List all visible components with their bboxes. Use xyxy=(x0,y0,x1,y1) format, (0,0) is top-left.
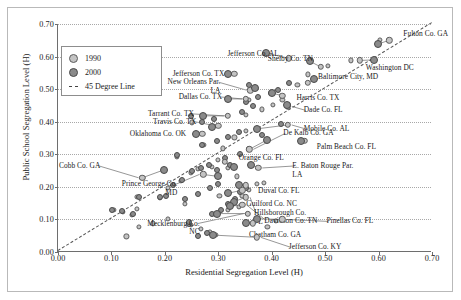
point-label: E. Baton Rouge Par. LA xyxy=(292,162,354,179)
data-point-2000 xyxy=(119,208,125,214)
data-point-2000 xyxy=(253,125,261,133)
data-point-2000 xyxy=(213,210,221,218)
data-point-2000 xyxy=(207,185,213,191)
data-point-2000 xyxy=(199,142,205,148)
leader-line xyxy=(262,166,294,168)
legend-item-45-line: 45 Degree Line xyxy=(69,79,161,93)
data-point-2000 xyxy=(208,123,216,131)
data-point-2000 xyxy=(242,219,250,227)
legend-item-2000: 2000 xyxy=(69,65,161,79)
point-label: Duval Co. FL xyxy=(258,187,299,196)
data-point-2000 xyxy=(109,207,115,213)
dashed-line-icon xyxy=(69,86,78,87)
point-label: Mecklenburg Co. NC xyxy=(138,220,200,237)
figure-scatter-plot: Public School Segregation Level (H) Resi… xyxy=(0,0,461,300)
data-point-2000 xyxy=(226,202,234,210)
legend-item-1990: 1990 xyxy=(69,51,161,65)
point-label: Palm Beach Co. FL xyxy=(317,143,376,152)
legend-label-2000: 2000 xyxy=(85,68,101,77)
data-point-2000 xyxy=(224,189,232,197)
y-tick-mark xyxy=(55,57,58,58)
data-point-2000 xyxy=(198,165,204,171)
point-label: Jefferson Co. KY xyxy=(289,243,342,252)
data-point-2000 xyxy=(268,89,276,97)
x-tick-label: 0.20 xyxy=(157,254,172,263)
data-point-2000 xyxy=(374,40,382,48)
point-label: Dallas Co. TX xyxy=(179,93,222,102)
data-point-2000 xyxy=(130,211,136,217)
y-tick-label: 0.20 xyxy=(39,182,54,191)
circle-1990-icon xyxy=(69,54,78,63)
data-point-2000 xyxy=(160,166,168,174)
y-tick-label: 0.50 xyxy=(39,85,54,94)
data-point-2000 xyxy=(199,119,205,125)
x-tick-label: 0.70 xyxy=(425,254,440,263)
data-point-2000 xyxy=(174,152,180,158)
gridline-horizontal xyxy=(58,122,431,123)
x-axis-label: Residential Segregation Level (H) xyxy=(57,267,431,277)
y-axis-label: Public School Segregation Level (H) xyxy=(21,17,31,217)
x-tick-label: 0.60 xyxy=(371,254,386,263)
data-point-2000 xyxy=(224,95,232,103)
data-point-2000 xyxy=(230,163,238,171)
point-label: Dade Co. FL xyxy=(304,106,343,115)
point-label: Cobb Co. GA xyxy=(59,162,100,171)
point-label: De Kalb Co. GA xyxy=(283,129,333,138)
point-label: Fulton Co. GA xyxy=(403,30,448,39)
x-tick-label: 0.30 xyxy=(211,254,226,263)
data-point-2000 xyxy=(195,191,201,197)
point-label: Orange Co. FL xyxy=(239,154,284,163)
leader-line xyxy=(98,166,138,178)
x-tick-label: 0.10 xyxy=(104,254,119,263)
data-point-2000 xyxy=(214,172,222,180)
point-label: Baltimore City, MD xyxy=(318,73,380,82)
circle-2000-icon xyxy=(69,68,78,77)
point-label: Pinellas Co. FL xyxy=(326,217,373,226)
y-tick-mark xyxy=(55,154,58,155)
data-point-2000 xyxy=(236,129,242,135)
y-tick-mark xyxy=(55,89,58,90)
gridline-horizontal xyxy=(58,24,431,25)
data-point-2000 xyxy=(209,231,217,239)
y-tick-mark xyxy=(55,24,58,25)
data-point-2000 xyxy=(199,112,207,120)
data-point-2000 xyxy=(224,70,232,78)
y-tick-label: 0.70 xyxy=(39,20,54,29)
data-point-2000 xyxy=(239,109,245,115)
y-tick-mark xyxy=(55,122,58,123)
data-point-2000 xyxy=(206,162,212,168)
data-point-2000 xyxy=(189,168,195,174)
y-tick-label: 0.30 xyxy=(39,150,54,159)
legend: 1990 2000 45 Degree Line xyxy=(61,46,162,96)
x-tick-label: 0.50 xyxy=(318,254,333,263)
point-label: Travis Co. TX xyxy=(153,118,196,127)
data-point-2000 xyxy=(247,161,255,169)
data-point-2000 xyxy=(215,181,221,187)
point-label: Oklahoma Co. OK xyxy=(130,130,186,139)
y-tick-label: 0.10 xyxy=(39,215,54,224)
data-point-2000 xyxy=(297,137,305,145)
y-tick-mark xyxy=(55,219,58,220)
data-point-2000 xyxy=(182,196,188,202)
data-point-2000 xyxy=(179,177,185,183)
data-point-2000 xyxy=(250,103,256,109)
data-point-2000 xyxy=(255,94,261,100)
y-tick-label: 0.60 xyxy=(39,52,54,61)
point-label: Shelby Co. TN xyxy=(268,55,313,64)
point-label: Davidson Co. TN xyxy=(264,217,317,226)
data-point-2000 xyxy=(251,84,259,92)
data-point-2000 xyxy=(283,101,291,109)
legend-label-1990: 1990 xyxy=(85,54,101,63)
data-point-2000 xyxy=(214,138,220,144)
x-tick-label: 0.40 xyxy=(264,254,279,263)
y-tick-mark xyxy=(55,187,58,188)
data-point-2000 xyxy=(211,116,217,122)
legend-label-45-line: 45 Degree Line xyxy=(85,82,135,91)
data-point-2000 xyxy=(286,80,292,86)
data-point-2000 xyxy=(263,136,271,144)
y-tick-label: 0.40 xyxy=(39,117,54,126)
data-point-2000 xyxy=(192,130,200,138)
point-label: Harris Co. TX xyxy=(296,94,339,103)
data-point-2000 xyxy=(225,134,231,140)
point-label: Prince George Co. MD xyxy=(115,180,177,197)
